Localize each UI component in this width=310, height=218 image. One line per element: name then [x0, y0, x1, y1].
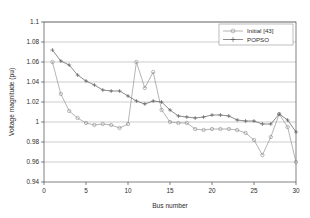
x-tick-label: 25: [250, 187, 258, 194]
chart-legend: Initial [43] POPSO: [219, 24, 293, 45]
legend-label-initial: Initial [43]: [247, 27, 274, 34]
x-tick-label: 30: [292, 187, 300, 194]
y-tick-label: 1.1: [30, 18, 39, 25]
y-tick-label: 1.02: [27, 98, 40, 105]
x-axis-title: Bus number: [152, 202, 188, 209]
x-tick-label: 20: [208, 187, 216, 194]
y-tick-label: 1.04: [27, 78, 40, 85]
legend-label-popso: POPSO: [247, 36, 269, 43]
x-tick-label: 5: [84, 187, 88, 194]
y-tick-label: 1: [35, 118, 39, 125]
y-tick-label: 1.06: [27, 58, 40, 65]
voltage-magnitude-line-chart: 0.940.960.9811.021.041.061.081.1 0510152…: [0, 0, 310, 218]
y-tick-label: 0.98: [27, 138, 40, 145]
chart-figure: 0.940.960.9811.021.041.061.081.1 0510152…: [0, 0, 310, 218]
y-tick-label: 0.94: [27, 178, 40, 185]
x-tick-label: 15: [166, 187, 174, 194]
x-tick-label: 0: [42, 187, 46, 194]
y-tick-label: 0.96: [27, 158, 40, 165]
y-axis-title: Voltage magnitude (pu): [8, 68, 16, 136]
x-tick-label: 10: [124, 187, 132, 194]
y-tick-label: 1.08: [27, 38, 40, 45]
